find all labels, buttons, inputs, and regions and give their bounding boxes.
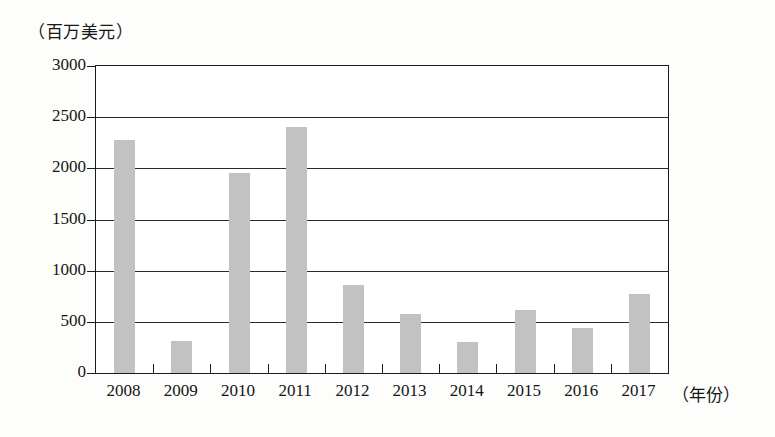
y-axis-unit-caption: （百万美元） (28, 18, 133, 43)
bar (400, 314, 421, 373)
x-axis-tick-labels: 2008200920102011201220132014201520162017 (95, 381, 669, 409)
x-tick-mark (554, 364, 555, 373)
x-tick-mark (382, 364, 383, 373)
bar (171, 341, 192, 373)
y-tick-mark (87, 322, 96, 323)
x-tick-mark (325, 364, 326, 373)
x-tick-label: 2014 (450, 381, 484, 401)
x-tick-mark (496, 364, 497, 373)
y-tick-mark (87, 271, 96, 272)
y-tick-label: 1000 (52, 260, 86, 280)
x-tick-label: 2016 (564, 381, 598, 401)
bar-chart-figure: （百万美元） 050010001500200025003000 20082009… (0, 0, 775, 437)
x-tick-mark (210, 364, 211, 373)
bar (229, 173, 250, 373)
x-tick-label: 2008 (107, 381, 141, 401)
bars-series (96, 66, 668, 373)
bar (286, 127, 307, 373)
x-tick-mark (611, 364, 612, 373)
x-tick-label: 2011 (279, 381, 312, 401)
bar (114, 140, 135, 373)
plot-area (95, 65, 669, 374)
bar (629, 294, 650, 373)
bar (343, 285, 364, 373)
bar (457, 342, 478, 373)
y-tick-mark (87, 66, 96, 67)
y-tick-mark (87, 373, 96, 374)
x-tick-label: 2012 (335, 381, 369, 401)
x-tick-label: 2013 (393, 381, 427, 401)
x-axis-unit-caption: （年份） (672, 381, 740, 406)
y-tick-label: 2500 (52, 106, 86, 126)
y-tick-label: 500 (61, 311, 87, 331)
y-tick-mark (87, 168, 96, 169)
y-tick-mark (87, 117, 96, 118)
x-tick-mark (439, 364, 440, 373)
x-tick-label: 2015 (507, 381, 541, 401)
y-axis-tick-labels: 050010001500200025003000 (22, 65, 86, 374)
x-tick-mark (153, 364, 154, 373)
y-tick-label: 3000 (52, 55, 86, 75)
bar (572, 328, 593, 373)
y-tick-label: 0 (78, 362, 87, 382)
y-tick-mark (87, 220, 96, 221)
x-tick-mark (268, 364, 269, 373)
y-tick-label: 1500 (52, 209, 86, 229)
x-tick-label: 2017 (621, 381, 655, 401)
x-tick-label: 2009 (164, 381, 198, 401)
x-tick-label: 2010 (221, 381, 255, 401)
bar (515, 310, 536, 373)
y-tick-label: 2000 (52, 157, 86, 177)
